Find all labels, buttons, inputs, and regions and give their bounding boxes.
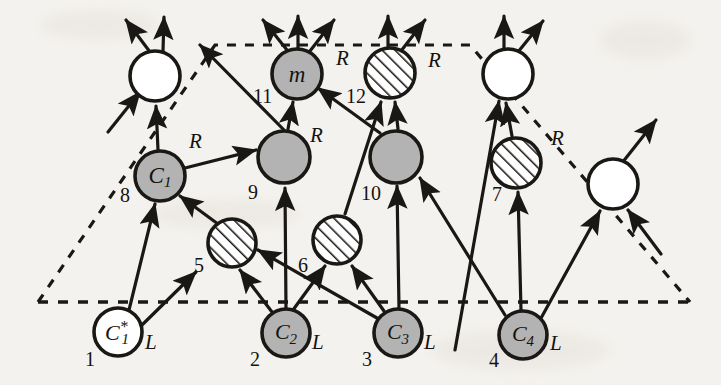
node-c1-label: C1 [148,164,171,190]
index-label-3: 3 [362,349,372,369]
figure-canvas: m C1 C*1 C2 C3 C4 R R R R R 8 11 12 9 10… [0,0,721,385]
node-c4-label: C4 [512,323,534,348]
edge-c1star-to-c1 [129,204,155,310]
index-label-10: 10 [361,183,381,203]
node-c2-letter: C [275,319,290,344]
index-label-7: 7 [492,184,502,204]
edge-label-r-c1: R [189,131,202,152]
edge-c4-to-7 [518,192,521,310]
node-c1-subscript: 1 [164,173,172,190]
edge-label-r-m: R [336,48,349,69]
leaf-label-2: L [312,332,324,353]
node-5[interactable] [208,219,256,267]
edge-7-to-topright [506,103,512,136]
edge-c3-to-10 [397,186,399,308]
node-c3-letter: C [387,319,402,344]
node-m-label: m [289,63,306,86]
node-c1star-label: C*1 [105,319,129,347]
node-c3-label: C3 [387,321,409,346]
edge-c3-to-5 [258,250,377,318]
node-c2-label: C2 [275,321,297,346]
node-12[interactable] [365,48,415,98]
edge-5-to-c1 [180,196,218,224]
edge-right-out-up [622,120,656,163]
edge-label-r-7: R [551,128,564,149]
node-c2-subscript: 2 [290,331,297,347]
node-c3-subscript: 3 [402,331,409,347]
index-label-9: 9 [248,182,258,202]
index-label-1: 1 [85,349,95,369]
index-label-2: 2 [250,349,260,369]
edge-out-topright-b [518,21,543,52]
index-label-5: 5 [194,255,204,275]
node-6[interactable] [313,216,361,264]
index-label-12: 12 [346,86,366,106]
node-7[interactable] [491,138,541,188]
node-c1star-letter: C [105,320,120,345]
edge-c2-to-5 [240,270,272,312]
node-top-right[interactable] [483,49,533,99]
node-10[interactable] [370,131,422,183]
edge-label-r-9: R [310,125,323,146]
edge-c1star-to-5 [142,272,196,325]
node-top-left[interactable] [130,51,180,101]
edge-10-to-12 [395,102,398,129]
edge-external-to-topleft [108,92,140,132]
edge-9-to-m [288,102,293,129]
node-9[interactable] [258,131,310,183]
edge-out-topleft-b [163,17,164,51]
edge-c1-to-topleft [156,106,158,150]
node-c4-subscript: 4 [527,333,534,349]
node-c1star-subscript: 1 [122,331,129,347]
edge-external4-to-topright [455,101,499,350]
node-c4-letter: C [512,321,527,346]
index-label-6: 6 [298,255,308,275]
index-label-8: 8 [120,185,130,205]
node-c1-letter: C [148,163,163,188]
edge-c2-to-9 [285,188,286,308]
edge-label-r-12: R [428,50,441,71]
leaf-label-4: L [550,333,562,354]
edge-c3-to-6 [352,266,384,311]
index-label-4: 4 [489,350,499,370]
node-right[interactable] [588,159,638,209]
index-label-11: 11 [253,86,272,106]
leaf-label-1: L [145,332,157,353]
edge-c4-to-right [540,211,600,320]
leaf-label-3: L [424,332,436,353]
edge-out-topleft-a [126,20,150,52]
